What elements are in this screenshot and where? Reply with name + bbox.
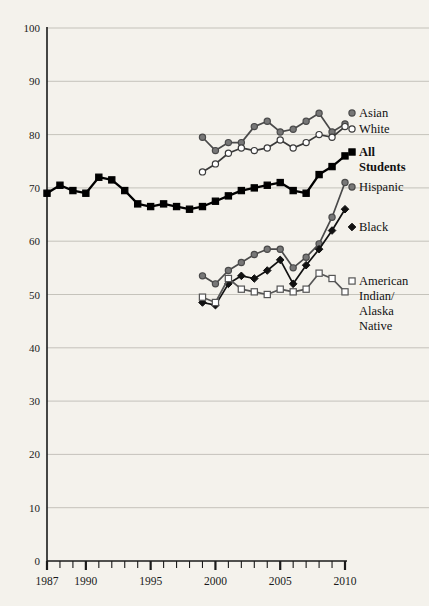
data-point — [186, 206, 192, 212]
data-point — [342, 289, 348, 295]
data-point — [225, 139, 231, 145]
data-point — [349, 126, 355, 132]
data-point — [303, 286, 309, 292]
data-point — [342, 179, 348, 185]
data-point — [277, 286, 283, 292]
data-point — [277, 137, 283, 143]
legend-label: Hispanic — [359, 180, 404, 194]
data-point — [199, 294, 205, 300]
data-point — [329, 214, 335, 220]
data-point — [303, 139, 309, 145]
data-point — [290, 289, 296, 295]
legend-label: Black — [359, 220, 389, 234]
legend-label: Alaska — [359, 304, 394, 318]
y-tick-label: 100 — [24, 22, 41, 34]
data-point — [212, 147, 218, 153]
y-tick-label: 50 — [29, 289, 41, 301]
data-point — [264, 291, 270, 297]
x-tick-label: 2005 — [269, 575, 292, 587]
data-point — [238, 187, 244, 193]
data-point — [290, 126, 296, 132]
data-point — [199, 134, 205, 140]
data-point — [212, 281, 218, 287]
chart-container: 0102030405060708090100 19871990199520002… — [0, 0, 429, 606]
data-point — [199, 169, 205, 175]
data-point — [342, 153, 348, 159]
data-point — [225, 275, 231, 281]
data-point — [238, 259, 244, 265]
data-point — [70, 187, 76, 193]
y-tick-label: 90 — [29, 75, 41, 87]
data-point — [303, 254, 309, 260]
data-point — [290, 145, 296, 151]
data-point — [251, 289, 257, 295]
data-point — [329, 275, 335, 281]
y-tick-label: 40 — [29, 342, 41, 354]
data-point — [238, 145, 244, 151]
data-point — [109, 177, 115, 183]
data-point — [316, 110, 322, 116]
data-point — [148, 203, 154, 209]
data-point — [316, 171, 322, 177]
legend-label: Students — [359, 160, 406, 174]
x-tick-label: 1995 — [139, 575, 162, 587]
data-point — [44, 190, 50, 196]
data-point — [264, 145, 270, 151]
data-point — [303, 190, 309, 196]
x-tick-label: 1990 — [74, 575, 97, 587]
data-point — [251, 147, 257, 153]
legend-label: Native — [359, 319, 393, 333]
data-point — [225, 267, 231, 273]
data-point — [329, 163, 335, 169]
x-tick-label: 2010 — [334, 575, 357, 587]
data-point — [225, 193, 231, 199]
data-point — [290, 187, 296, 193]
data-point — [96, 174, 102, 180]
y-tick-label: 80 — [29, 129, 41, 141]
data-point — [277, 129, 283, 135]
data-point — [349, 110, 355, 116]
data-point — [264, 118, 270, 124]
data-point — [225, 150, 231, 156]
y-tick-label: 60 — [29, 235, 41, 247]
data-point — [173, 203, 179, 209]
line-chart: 0102030405060708090100 19871990199520002… — [0, 0, 429, 606]
x-tick-label: 2000 — [204, 575, 227, 587]
data-point — [251, 124, 257, 130]
data-point — [122, 187, 128, 193]
data-point — [57, 182, 63, 188]
data-point — [251, 251, 257, 257]
data-point — [264, 182, 270, 188]
legend-label: White — [359, 122, 390, 136]
data-point — [212, 299, 218, 305]
y-tick-label: 0 — [35, 555, 41, 567]
data-point — [349, 184, 355, 190]
data-point — [83, 190, 89, 196]
y-tick-label: 30 — [29, 395, 41, 407]
data-point — [264, 246, 270, 252]
data-point — [135, 201, 141, 207]
y-tick-label: 20 — [29, 448, 41, 460]
data-point — [290, 265, 296, 271]
x-tick-label: 1987 — [36, 575, 59, 587]
data-point — [277, 246, 283, 252]
y-tick-label: 10 — [29, 502, 41, 514]
data-point — [161, 201, 167, 207]
legend-label: American — [359, 274, 409, 288]
data-point — [212, 161, 218, 167]
data-point — [349, 149, 355, 155]
data-point — [251, 185, 257, 191]
data-point — [199, 203, 205, 209]
data-point — [349, 278, 355, 284]
data-point — [212, 198, 218, 204]
data-point — [316, 132, 322, 138]
y-tick-label: 70 — [29, 182, 41, 194]
legend-label: Asian — [359, 106, 389, 120]
data-point — [316, 270, 322, 276]
data-point — [329, 134, 335, 140]
legend-label: Indian/ — [359, 289, 395, 303]
data-point — [199, 273, 205, 279]
data-point — [238, 286, 244, 292]
legend-label: All — [359, 145, 376, 159]
data-point — [303, 118, 309, 124]
